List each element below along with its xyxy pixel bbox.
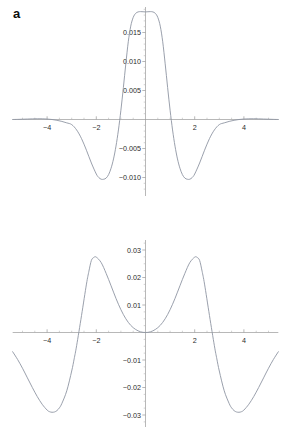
svg-text:−0.010: −0.010 xyxy=(119,173,141,182)
svg-text:−4: −4 xyxy=(43,336,51,345)
chart-svg-a: −4−2240.0150.0100.005−0.005−0.010 xyxy=(0,0,289,215)
svg-text:4: 4 xyxy=(242,336,246,345)
svg-text:0.005: 0.005 xyxy=(123,86,141,95)
svg-text:0.02: 0.02 xyxy=(127,273,141,282)
svg-text:2: 2 xyxy=(193,123,197,132)
svg-text:−2: −2 xyxy=(92,336,100,345)
svg-text:−0.01: −0.01 xyxy=(123,356,141,365)
chart-svg-b: −4−2240.030.020.01−0.01−0.02−0.03 xyxy=(0,215,289,430)
svg-text:−4: −4 xyxy=(43,123,51,132)
svg-text:0.01: 0.01 xyxy=(127,301,141,310)
plot-panel-b: b −4−2240.030.020.01−0.01−0.02−0.03 xyxy=(0,215,289,430)
svg-text:−2: −2 xyxy=(92,123,100,132)
svg-text:−0.02: −0.02 xyxy=(123,383,141,392)
svg-text:2: 2 xyxy=(193,336,197,345)
svg-text:0.03: 0.03 xyxy=(127,246,141,255)
svg-text:−0.03: −0.03 xyxy=(123,411,141,420)
plot-panel-a: a −4−2240.0150.0100.005−0.005−0.010 xyxy=(0,0,289,215)
svg-text:0.015: 0.015 xyxy=(123,28,141,37)
svg-text:−0.005: −0.005 xyxy=(119,144,141,153)
svg-text:4: 4 xyxy=(242,123,246,132)
